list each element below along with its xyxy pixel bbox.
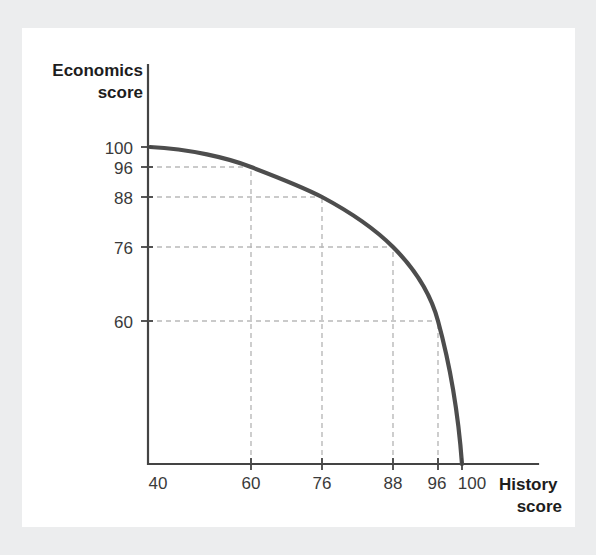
- axis-lines: [148, 65, 538, 464]
- y-tick-label-88: 88: [114, 189, 133, 208]
- x-tick-label-40: 40: [149, 474, 168, 493]
- y-axis-title-line2: score: [98, 83, 143, 102]
- x-tick-label-76: 76: [313, 474, 332, 493]
- y-tick-label-100: 100: [105, 139, 133, 158]
- chart-container: Economics score: [0, 0, 596, 555]
- ppf-chart: Economics score: [0, 0, 596, 555]
- y-axis-title-line1: Economics: [52, 61, 143, 80]
- x-tick-label-96: 96: [428, 474, 447, 493]
- x-tick-label-100: 100: [458, 474, 486, 493]
- ppf-curve: [150, 147, 462, 464]
- x-tick-label-60: 60: [242, 474, 261, 493]
- x-axis-title-line1: History: [499, 475, 558, 494]
- x-tick-label-88: 88: [384, 474, 403, 493]
- page-root: Economics score: [0, 0, 596, 555]
- y-tick-label-96: 96: [114, 159, 133, 178]
- x-axis-title-line2: score: [517, 497, 562, 516]
- y-tick-label-60: 60: [114, 313, 133, 332]
- y-tick-label-76: 76: [114, 239, 133, 258]
